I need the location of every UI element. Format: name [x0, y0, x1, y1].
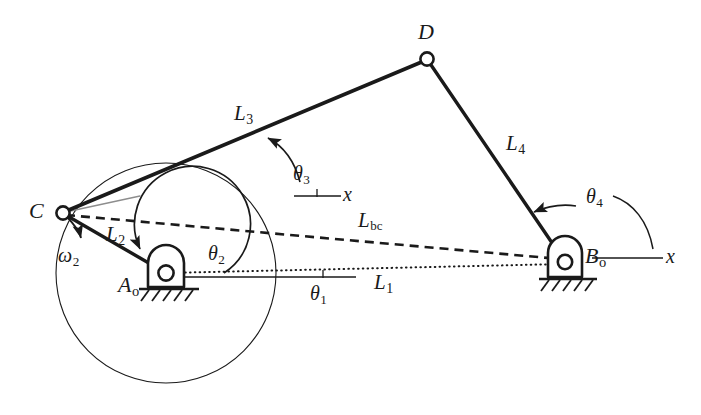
label-link-L1: L1: [374, 272, 393, 296]
link-L4-rocker: [429, 62, 563, 259]
label-theta3: θ3: [293, 163, 310, 186]
label-point-c: C: [29, 200, 44, 222]
label-link-L2: L2: [106, 224, 125, 248]
link-L3-coupler: [64, 61, 424, 212]
label-theta1: θ1: [310, 283, 327, 306]
label-link-L3: L3: [234, 103, 253, 127]
theta4-angle-arc-arrow-segment: [534, 205, 576, 212]
label-x-axis-theta4: x: [666, 246, 675, 266]
label-x-axis-theta3: x: [343, 184, 352, 204]
diagonal-Lbc-dashed-line: [66, 215, 560, 259]
label-theta4: θ4: [586, 186, 603, 209]
joint-marker-D: [420, 52, 433, 65]
label-link-L4: L4: [506, 133, 525, 157]
label-ground-pivot-a0: Ao: [118, 274, 139, 299]
label-diagonal-Lbc: Lbc: [358, 210, 382, 232]
joint-marker-C: [56, 206, 69, 219]
label-point-d: D: [418, 21, 434, 43]
label-ground-pivot-b0: Bo: [585, 245, 606, 270]
theta3-construction-line: [66, 196, 140, 212]
linkage-diagram-canvas: C D Ao Bo L1 L2 L3 L4 Lbc θ1 θ2 θ3 θ4 ω2…: [0, 0, 701, 415]
theta4-angle-arc: [613, 196, 653, 249]
label-omega2: ω2: [58, 245, 79, 268]
label-theta2: θ2: [208, 243, 225, 266]
